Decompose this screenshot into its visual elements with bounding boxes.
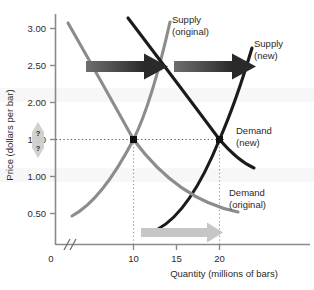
x-tick-label-15: 15 bbox=[171, 253, 182, 264]
y-tick-label-300: 3.00 bbox=[28, 23, 47, 34]
y-tick-label-250: 2.50 bbox=[28, 60, 47, 71]
equilibrium-point-new bbox=[216, 136, 223, 143]
x-tick-label-0: 0 bbox=[48, 253, 53, 264]
y-axis-title: Price (dollars per bar) bbox=[4, 89, 15, 180]
chart-svg: 3.00 2.50 2.00 1.50 1.00 0.50 Price (dol… bbox=[0, 0, 314, 290]
demand-original-label-line2: (original) bbox=[229, 199, 266, 210]
demand-original-label: Demand (original) bbox=[229, 187, 266, 210]
demand-new-label-line1: Demand bbox=[236, 125, 272, 136]
supply-demand-chart: 3.00 2.50 2.00 1.50 1.00 0.50 Price (dol… bbox=[0, 0, 314, 290]
supply-new-label-line2: (new) bbox=[254, 50, 278, 61]
x-axis-title: Quantity (millions of bars) bbox=[170, 268, 278, 279]
question-mark-top: ? bbox=[36, 129, 41, 138]
y-tick-label-100: 1.00 bbox=[28, 171, 47, 182]
demand-new-label-line2: (new) bbox=[236, 137, 260, 148]
scan-band-lower bbox=[0, 168, 314, 182]
question-mark-bottom: ? bbox=[36, 144, 41, 153]
supply-original-label-line1: Supply bbox=[172, 14, 201, 25]
y-tick-label-050: 0.50 bbox=[28, 208, 47, 219]
y-tick-label-200: 2.00 bbox=[28, 97, 47, 108]
supply-new-label-line1: Supply bbox=[254, 38, 283, 49]
supply-original-label-line2: (original) bbox=[172, 26, 209, 37]
x-tick-label-10: 10 bbox=[128, 253, 139, 264]
x-tick-label-20: 20 bbox=[214, 253, 225, 264]
demand-original-label-line1: Demand bbox=[229, 187, 265, 198]
scan-band-upper bbox=[0, 88, 314, 102]
equilibrium-point-original bbox=[130, 136, 137, 143]
